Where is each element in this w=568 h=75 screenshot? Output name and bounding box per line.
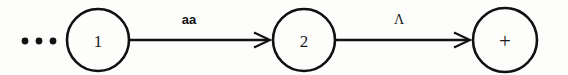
state-node-2[interactable]: 2 bbox=[273, 9, 335, 71]
ellipsis-indicator bbox=[22, 38, 57, 45]
transition-label-aa: aa bbox=[182, 12, 197, 27]
transition-1-to-2: aa bbox=[130, 12, 270, 48]
state-label: 1 bbox=[94, 32, 103, 51]
state-label: + bbox=[499, 29, 511, 53]
ellipsis-dot bbox=[50, 38, 57, 45]
transition-label-lambda: Λ bbox=[394, 12, 405, 27]
ellipsis-dot bbox=[22, 38, 29, 45]
state-label: 2 bbox=[300, 32, 309, 51]
transition-2-to-plus: Λ bbox=[336, 12, 470, 48]
state-node-1[interactable]: 1 bbox=[67, 9, 129, 71]
automaton-diagram: aa Λ 1 2 + bbox=[0, 0, 568, 75]
ellipsis-dot bbox=[36, 38, 43, 45]
automaton-canvas: aa Λ 1 2 + bbox=[0, 0, 568, 75]
state-node-plus[interactable]: + bbox=[473, 8, 537, 72]
